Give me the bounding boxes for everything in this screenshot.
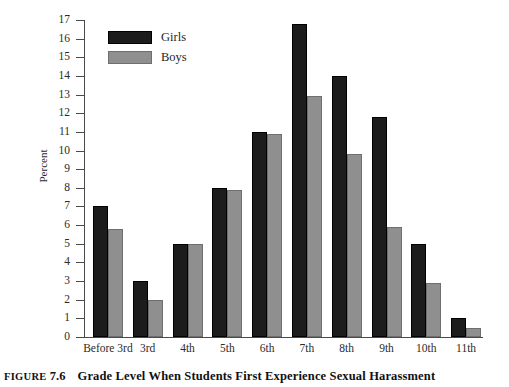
- bar-boys-9th: [387, 227, 402, 337]
- y-axis-tick-label-text: 3: [46, 275, 70, 287]
- y-axis-tick-label: 9: [46, 163, 70, 175]
- y-axis-tick-label: 0: [46, 331, 70, 343]
- bar-group: [451, 20, 481, 337]
- y-axis-tick: [76, 244, 84, 245]
- y-axis-tick-label: 14: [46, 70, 70, 82]
- y-axis-tick-label-text: 7: [46, 200, 70, 212]
- bar-boys-5th: [227, 190, 242, 337]
- y-axis-tick: [76, 188, 84, 189]
- bar-group: [372, 20, 402, 337]
- bar-boys-3rd: [148, 300, 163, 337]
- y-axis-tick-label: 10: [46, 145, 70, 157]
- y-axis-tick-label: 12: [46, 107, 70, 119]
- bar-girls-6th: [252, 132, 267, 337]
- y-axis-tick-label-text: 15: [46, 51, 70, 63]
- bar-boys-7th: [307, 96, 322, 337]
- y-axis-tick-label-text: 13: [46, 89, 70, 101]
- bar-group: [292, 20, 322, 337]
- bar-girls-3rd: [133, 281, 148, 337]
- y-axis-tick: [76, 95, 84, 96]
- y-axis-tick-label: 7: [46, 200, 70, 212]
- y-axis-tick-label-text: 16: [46, 33, 70, 45]
- y-axis-tick-label-text: 0: [46, 331, 70, 343]
- y-axis-tick: [76, 225, 84, 226]
- y-axis-tick: [76, 57, 84, 58]
- bar-boys-6th: [267, 134, 282, 337]
- y-axis-tick: [76, 113, 84, 114]
- legend-label-girls: Girls: [161, 30, 186, 45]
- legend-item-boys: Boys: [108, 50, 187, 65]
- y-axis-tick: [76, 281, 84, 282]
- y-axis-tick-label-text: 17: [46, 14, 70, 26]
- y-axis-tick-label: 15: [46, 51, 70, 63]
- figure-container: 01234567891011121314151617 Percent Befor…: [0, 0, 509, 387]
- bar-girls-8th: [332, 76, 347, 337]
- y-axis-tick-label: 16: [46, 33, 70, 45]
- y-axis-tick-label: 11: [46, 126, 70, 138]
- y-axis-tick-label-text: 2: [46, 294, 70, 306]
- y-axis-tick-label: 6: [46, 219, 70, 231]
- bar-group: [252, 20, 282, 337]
- y-axis-tick-label: 3: [46, 275, 70, 287]
- y-axis-tick-label-text: 9: [46, 163, 70, 175]
- y-axis-tick: [76, 76, 84, 77]
- bar-group: [212, 20, 242, 337]
- y-axis-tick-label: 17: [46, 14, 70, 26]
- y-axis-tick-label-text: 10: [46, 145, 70, 157]
- bar-group: [411, 20, 441, 337]
- bar-group: [332, 20, 362, 337]
- y-axis-tick-label: 1: [46, 312, 70, 324]
- y-axis-tick: [76, 151, 84, 152]
- chart-legend: Girls Boys: [108, 30, 187, 70]
- y-axis-tick: [76, 20, 84, 21]
- y-axis-tick-label-text: 12: [46, 107, 70, 119]
- bar-girls-before-3rd: [93, 206, 108, 337]
- y-axis-tick: [76, 39, 84, 40]
- y-axis-tick-label: 4: [46, 256, 70, 268]
- bar-boys-10th: [426, 283, 441, 337]
- figure-caption: FIGURE 7.6 Grade Level When Students Fir…: [4, 369, 435, 384]
- y-axis-tick: [76, 337, 84, 338]
- y-axis-tick: [76, 169, 84, 170]
- bar-girls-10th: [411, 244, 426, 337]
- bar-boys-11th: [466, 328, 481, 337]
- y-axis-tick: [76, 262, 84, 263]
- y-axis-tick: [76, 300, 84, 301]
- y-axis-tick: [76, 206, 84, 207]
- y-axis-tick-label-text: 8: [46, 182, 70, 194]
- y-axis-tick-label-text: 1: [46, 312, 70, 324]
- y-axis-tick-label: 13: [46, 89, 70, 101]
- y-axis-tick-label-text: 4: [46, 256, 70, 268]
- bar-girls-11th: [451, 318, 466, 337]
- x-axis-line: [84, 337, 483, 338]
- y-axis-tick-label: 8: [46, 182, 70, 194]
- legend-swatch-girls-icon: [108, 31, 152, 44]
- y-axis-tick-label-text: 11: [46, 126, 70, 138]
- bar-girls-9th: [372, 117, 387, 337]
- y-axis-tick-label-text: 5: [46, 238, 70, 250]
- bar-girls-4th: [173, 244, 188, 337]
- y-axis-tick: [76, 132, 84, 133]
- x-axis-label-11th: 11th: [429, 342, 503, 355]
- y-axis-tick-label-text: 6: [46, 219, 70, 231]
- bar-boys-before-3rd: [108, 229, 123, 337]
- legend-label-boys: Boys: [161, 50, 187, 65]
- bar-girls-7th: [292, 24, 307, 337]
- y-axis-tick-label: 5: [46, 238, 70, 250]
- legend-swatch-boys-icon: [108, 51, 152, 64]
- legend-item-girls: Girls: [108, 30, 187, 45]
- caption-title: Grade Level When Students First Experien…: [78, 369, 436, 383]
- y-axis-tick: [76, 318, 84, 319]
- y-axis-title: Percent: [37, 121, 49, 211]
- caption-number: 7.6: [50, 369, 66, 383]
- bar-girls-5th: [212, 188, 227, 337]
- bar-boys-8th: [347, 154, 362, 337]
- caption-prefix: FIGURE: [4, 371, 47, 382]
- y-axis-tick-label: 2: [46, 294, 70, 306]
- bar-boys-4th: [188, 244, 203, 337]
- y-axis-tick-label-text: 14: [46, 70, 70, 82]
